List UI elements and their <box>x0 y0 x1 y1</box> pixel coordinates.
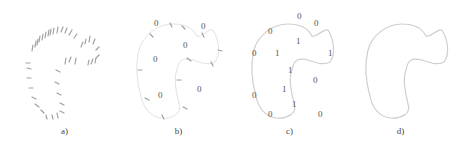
label-0: 0 <box>153 54 158 64</box>
label-0: 0 <box>183 40 188 50</box>
panel-d: d) <box>342 0 457 149</box>
panel-b: 0 0 0 0 0 0 b) <box>113 0 228 149</box>
caption-b: b) <box>121 126 236 136</box>
label-0: 0 <box>268 26 273 36</box>
label-0: 0 <box>158 90 163 100</box>
label-1: 1 <box>292 99 297 109</box>
label-0: 0 <box>201 21 206 31</box>
figure: a) 0 0 0 0 0 0 <box>0 0 460 149</box>
label-0: 0 <box>268 109 273 119</box>
label-0: 0 <box>314 18 319 28</box>
label-0: 0 <box>154 18 159 28</box>
label-1: 1 <box>328 48 333 58</box>
label-0: 0 <box>252 90 257 100</box>
label-0: 0 <box>197 84 202 94</box>
label-0: 0 <box>313 75 318 85</box>
panel-a: a) <box>0 0 115 149</box>
caption-c: c) <box>232 126 347 136</box>
label-0: 0 <box>318 109 323 119</box>
caption-d: d) <box>343 126 458 136</box>
label-0: 0 <box>297 11 302 21</box>
label-1: 1 <box>288 65 293 75</box>
label-1: 1 <box>282 84 287 94</box>
label-1: 1 <box>275 48 280 58</box>
caption-a: a) <box>7 126 122 136</box>
panel-c: 0 0 0 0 0 0 0 0 1 1 1 1 1 1 c) <box>228 0 343 149</box>
label-0: 0 <box>252 48 257 58</box>
label-1: 1 <box>296 36 301 46</box>
